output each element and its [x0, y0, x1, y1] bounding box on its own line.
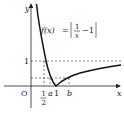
x-tick-b: b [67, 89, 72, 98]
fraction-denominator: x [75, 32, 79, 40]
function-minus: − [82, 26, 89, 35]
origin-label: O [21, 89, 28, 98]
x-axis-label: x [117, 89, 122, 98]
x-tick-1: 1 [54, 89, 59, 98]
x-tick-half-numerator: 1 [42, 90, 46, 98]
x-tick-a: a [48, 89, 53, 98]
fraction-numerator: 1 [75, 23, 79, 31]
function-const: 1 [89, 26, 94, 35]
function-curve [37, 4, 122, 86]
y-axis-label: y [24, 4, 30, 13]
function-label: f(x) = 1 x − 1 [40, 22, 96, 40]
y-tick-1: 1 [24, 57, 29, 66]
x-tick-half-denominator: 2 [42, 99, 46, 107]
function-equals: = [62, 26, 69, 35]
function-graph: y x O 1 1 2 a 1 b f(x) = 1 x − 1 [0, 0, 124, 116]
function-lhs: f(x) [40, 26, 55, 35]
dashed-guides [31, 61, 121, 86]
